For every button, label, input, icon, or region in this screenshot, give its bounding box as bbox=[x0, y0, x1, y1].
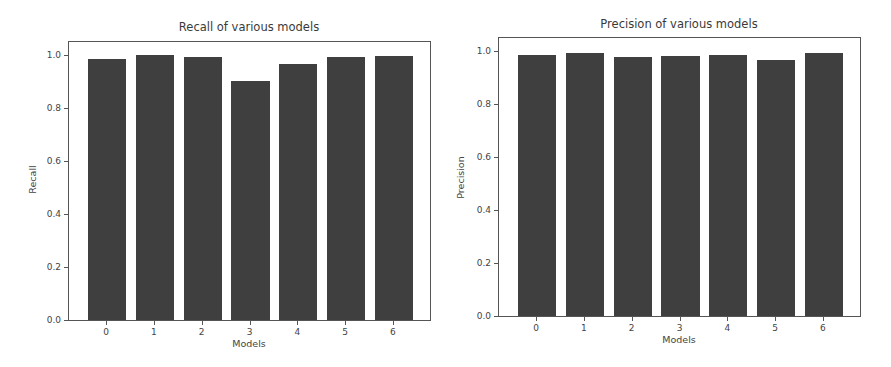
y-axis-label: Recall bbox=[27, 165, 38, 193]
x-tick-mark bbox=[584, 317, 585, 321]
bar-model-6 bbox=[805, 53, 843, 316]
bar-model-0 bbox=[88, 59, 126, 320]
bar-model-6 bbox=[375, 56, 413, 320]
y-tick-mark bbox=[64, 214, 68, 215]
x-tick-mark bbox=[823, 317, 824, 321]
x-tick-label: 3 bbox=[677, 323, 683, 333]
x-tick-mark bbox=[250, 321, 251, 325]
x-tick-mark bbox=[202, 321, 203, 325]
plot-area bbox=[498, 37, 861, 317]
y-tick-mark bbox=[64, 161, 68, 162]
x-tick-mark bbox=[345, 321, 346, 325]
y-tick-mark bbox=[64, 320, 68, 321]
x-tick-mark bbox=[297, 321, 298, 325]
y-tick-label: 1.0 bbox=[35, 50, 61, 60]
bar-model-1 bbox=[136, 55, 174, 320]
x-tick-mark bbox=[680, 317, 681, 321]
x-tick-label: 1 bbox=[151, 327, 157, 337]
bar-model-2 bbox=[184, 57, 222, 320]
y-tick-label: 0.0 bbox=[35, 315, 61, 325]
y-tick-mark bbox=[64, 55, 68, 56]
bar-model-3 bbox=[231, 81, 269, 320]
x-tick-label: 3 bbox=[247, 327, 253, 337]
y-tick-label: 0.2 bbox=[465, 258, 491, 268]
plot-area bbox=[68, 41, 431, 321]
bar-model-0 bbox=[518, 55, 556, 316]
y-tick-mark bbox=[64, 108, 68, 109]
bar-model-4 bbox=[279, 64, 317, 320]
y-tick-label: 0.0 bbox=[465, 311, 491, 321]
y-tick-label: 1.0 bbox=[465, 46, 491, 56]
x-tick-label: 6 bbox=[820, 323, 826, 333]
y-tick-mark bbox=[494, 263, 498, 264]
chart-title: Precision of various models bbox=[600, 17, 757, 31]
x-tick-label: 6 bbox=[390, 327, 396, 337]
x-tick-label: 4 bbox=[294, 327, 300, 337]
x-tick-mark bbox=[775, 317, 776, 321]
x-tick-label: 5 bbox=[342, 327, 348, 337]
y-tick-mark bbox=[64, 267, 68, 268]
y-tick-label: 0.2 bbox=[35, 262, 61, 272]
precision-chart: Precision of various models Precision Mo… bbox=[445, 0, 890, 367]
x-tick-mark bbox=[393, 321, 394, 325]
y-tick-mark bbox=[494, 157, 498, 158]
x-tick-label: 2 bbox=[629, 323, 635, 333]
y-tick-label: 0.6 bbox=[465, 152, 491, 162]
bar-model-2 bbox=[614, 57, 652, 316]
x-tick-mark bbox=[632, 317, 633, 321]
y-tick-mark bbox=[494, 51, 498, 52]
y-tick-mark bbox=[494, 104, 498, 105]
bar-model-5 bbox=[327, 57, 365, 320]
y-tick-mark bbox=[494, 210, 498, 211]
bar-model-1 bbox=[566, 53, 604, 316]
x-tick-mark bbox=[154, 321, 155, 325]
x-tick-mark bbox=[536, 317, 537, 321]
x-tick-label: 0 bbox=[533, 323, 539, 333]
y-tick-label: 0.8 bbox=[35, 103, 61, 113]
y-axis-label: Precision bbox=[455, 156, 466, 198]
x-axis-label: Models bbox=[232, 338, 265, 349]
x-tick-label: 5 bbox=[772, 323, 778, 333]
bar-model-3 bbox=[661, 56, 699, 316]
x-tick-mark bbox=[106, 321, 107, 325]
x-tick-label: 2 bbox=[199, 327, 205, 337]
bar-model-4 bbox=[709, 55, 747, 316]
x-tick-label: 4 bbox=[724, 323, 730, 333]
bar-model-5 bbox=[757, 60, 795, 316]
y-tick-label: 0.8 bbox=[465, 99, 491, 109]
y-tick-label: 0.6 bbox=[35, 156, 61, 166]
x-axis-label: Models bbox=[662, 334, 695, 345]
chart-title: Recall of various models bbox=[179, 20, 319, 34]
y-tick-label: 0.4 bbox=[465, 205, 491, 215]
recall-chart: Recall of various models Recall Models 0… bbox=[0, 0, 445, 367]
y-tick-label: 0.4 bbox=[35, 209, 61, 219]
x-tick-label: 0 bbox=[103, 327, 109, 337]
x-tick-label: 1 bbox=[581, 323, 587, 333]
x-tick-mark bbox=[727, 317, 728, 321]
y-tick-mark bbox=[494, 316, 498, 317]
